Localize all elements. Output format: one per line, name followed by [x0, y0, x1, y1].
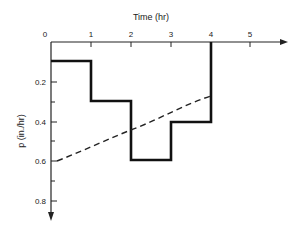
y-tick-label-0.6: 0.6 [35, 157, 47, 166]
x-tick-label-5: 5 [248, 30, 253, 39]
rainfall-step-series [51, 42, 211, 160]
y-tick-label-0.2: 0.2 [35, 78, 47, 87]
y-tick-label-0.4: 0.4 [35, 118, 47, 127]
x-tick-label-1: 1 [89, 30, 94, 39]
y-axis-arrow-icon [48, 212, 54, 221]
y-tick-label-0.8: 0.8 [35, 197, 47, 206]
x-tick-label-3: 3 [169, 30, 174, 39]
x-axis-ticks [91, 42, 250, 47]
infiltration-dashed-series [57, 96, 211, 161]
x-axis-title: Time (hr) [133, 12, 169, 22]
x-tick-label-0: 0 [43, 30, 48, 39]
x-tick-label-4: 4 [209, 30, 214, 39]
x-tick-label-2: 2 [129, 30, 134, 39]
hyetograph-chart: Time (hr) 0 1 2 3 4 5 0.2 0.4 0.6 0.8 p … [0, 0, 305, 236]
y-axis-ticks [51, 82, 57, 201]
y-axis-title: p (in./hr) [16, 114, 26, 148]
x-axis-arrow-icon [280, 39, 288, 45]
